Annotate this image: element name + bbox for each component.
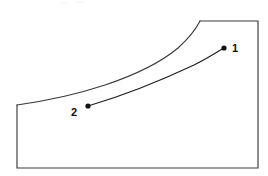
state-point-2-label: 2: [71, 106, 77, 118]
scan-artifact-mark: [60, 2, 84, 5]
thermodynamic-diagram-figure: 1 2: [0, 0, 268, 176]
state-point-2-marker: [85, 103, 90, 108]
saturation-dome-curve: [17, 21, 200, 105]
diagram-canvas: 1 2: [0, 0, 268, 176]
state-point-1-label: 1: [232, 42, 238, 54]
diagram-boundary-outline: [17, 21, 258, 168]
process-line-2-to-1: [88, 48, 224, 106]
state-point-1-marker: [221, 45, 226, 50]
